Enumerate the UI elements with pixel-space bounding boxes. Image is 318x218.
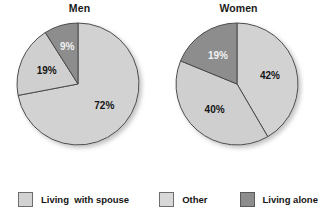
pie-slice-label: 40% bbox=[204, 104, 224, 115]
legend-swatch-other bbox=[159, 192, 174, 207]
pie-slice-label: 19% bbox=[207, 50, 227, 61]
legend-label-living-alone: Living alone bbox=[263, 194, 318, 205]
legend: Living with spouse Other Living alone bbox=[0, 186, 318, 212]
pie-men: 72%19%9% bbox=[15, 18, 145, 152]
legend-swatch-living-alone bbox=[240, 192, 255, 207]
pie-chart-figure: Men 72%19%9% Women bbox=[0, 0, 318, 218]
pie-slice-label: 72% bbox=[94, 100, 114, 111]
chart-title-men: Men bbox=[0, 2, 159, 14]
chart-title-women: Women bbox=[159, 2, 318, 14]
legend-item-other: Other bbox=[159, 192, 207, 207]
charts-row: Men 72%19%9% Women bbox=[0, 0, 318, 176]
pie-women-slices bbox=[175, 23, 297, 145]
pie-men-svg: 72%19%9% bbox=[15, 18, 145, 152]
pie-women: 42%40%19% bbox=[174, 18, 304, 152]
chart-women: Women 42%40%19% bbox=[159, 0, 318, 176]
legend-label-living-with-spouse: Living with spouse bbox=[41, 194, 129, 205]
legend-item-living-with-spouse: Living with spouse bbox=[18, 192, 129, 207]
legend-item-living-alone: Living alone bbox=[240, 192, 318, 207]
pie-women-svg: 42%40%19% bbox=[174, 18, 304, 152]
pie-men-slices bbox=[16, 23, 138, 145]
pie-slice-label: 19% bbox=[36, 65, 56, 76]
pie-slice-label: 9% bbox=[59, 41, 74, 52]
legend-label-other: Other bbox=[182, 194, 207, 205]
legend-swatch-living-with-spouse bbox=[18, 192, 33, 207]
chart-men: Men 72%19%9% bbox=[0, 0, 159, 176]
pie-slice-label: 42% bbox=[259, 70, 279, 81]
